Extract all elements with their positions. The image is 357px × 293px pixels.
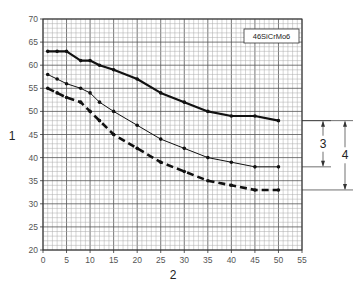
legend-label: 46SiCrMo6	[253, 32, 291, 41]
x-tick-label: 40	[227, 255, 237, 265]
y-tick-label: 20	[29, 245, 39, 255]
x-tick-label: 30	[180, 255, 190, 265]
data-point	[98, 119, 102, 123]
x-tick-label: 45	[250, 255, 260, 265]
annotations: 34	[302, 121, 353, 190]
data-point	[230, 184, 234, 188]
data-point	[159, 160, 163, 164]
data-point	[206, 110, 210, 114]
data-point	[79, 59, 83, 63]
data-point	[88, 59, 92, 63]
axes: 0510152025303540455055202530354045505560…	[29, 14, 307, 265]
grid	[43, 19, 302, 250]
x-tick-label: 25	[156, 255, 166, 265]
y-tick-label: 25	[29, 222, 39, 232]
data-point	[112, 133, 116, 137]
data-point	[46, 50, 50, 54]
y-tick-label: 70	[29, 14, 39, 24]
y-tick-label: 60	[29, 60, 39, 70]
y-tick-label: 65	[29, 37, 39, 47]
y-tick-label: 45	[29, 130, 39, 140]
data-point	[98, 63, 102, 67]
data-point	[277, 188, 281, 192]
data-point	[135, 147, 139, 151]
data-point	[88, 110, 92, 114]
data-point	[135, 77, 139, 81]
data-point	[88, 91, 92, 95]
legend-box: 46SiCrMo6	[244, 29, 299, 43]
data-point	[253, 165, 257, 169]
data-point	[206, 179, 210, 183]
data-point	[159, 91, 163, 95]
data-point	[159, 137, 163, 141]
data-point	[98, 100, 102, 104]
x-tick-label: 35	[203, 255, 213, 265]
y-tick-label: 30	[29, 199, 39, 209]
data-point	[277, 119, 281, 123]
data-point	[112, 68, 116, 72]
data-point	[112, 110, 116, 114]
data-point	[79, 87, 83, 91]
data-point	[277, 165, 281, 169]
x-tick-label: 50	[274, 255, 284, 265]
y-tick-label: 55	[29, 83, 39, 93]
data-point	[65, 96, 69, 100]
x-tick-label: 20	[132, 255, 142, 265]
data-point	[46, 87, 50, 91]
data-point	[65, 82, 69, 86]
data-point	[253, 114, 257, 118]
data-point	[55, 77, 59, 81]
data-point	[55, 50, 59, 54]
x-tick-label: 15	[109, 255, 119, 265]
data-point	[182, 170, 186, 174]
data-point	[135, 123, 139, 127]
y-axis-label: 1	[9, 129, 16, 143]
data-point	[65, 50, 69, 54]
x-tick-label: 10	[85, 255, 95, 265]
y-tick-label: 35	[29, 176, 39, 186]
y-tick-label: 40	[29, 153, 39, 163]
data-point	[182, 147, 186, 151]
x-tick-label: 0	[41, 255, 46, 265]
x-tick-label: 5	[64, 255, 69, 265]
data-point	[182, 100, 186, 104]
x-axis-label: 2	[170, 268, 177, 282]
data-point	[206, 156, 210, 160]
chart: 0510152025303540455055202530354045505560…	[0, 0, 357, 293]
data-point	[253, 188, 257, 192]
series-line-upper	[48, 51, 279, 120]
y-tick-label: 50	[29, 106, 39, 116]
data-point	[55, 91, 59, 95]
x-tick-label: 55	[297, 255, 307, 265]
annotation-label-3: 3	[320, 137, 327, 151]
annotation-label-4: 4	[342, 148, 349, 162]
data-point	[79, 100, 83, 104]
data-point	[230, 160, 234, 164]
data-point	[230, 114, 234, 118]
data-point	[46, 73, 50, 77]
